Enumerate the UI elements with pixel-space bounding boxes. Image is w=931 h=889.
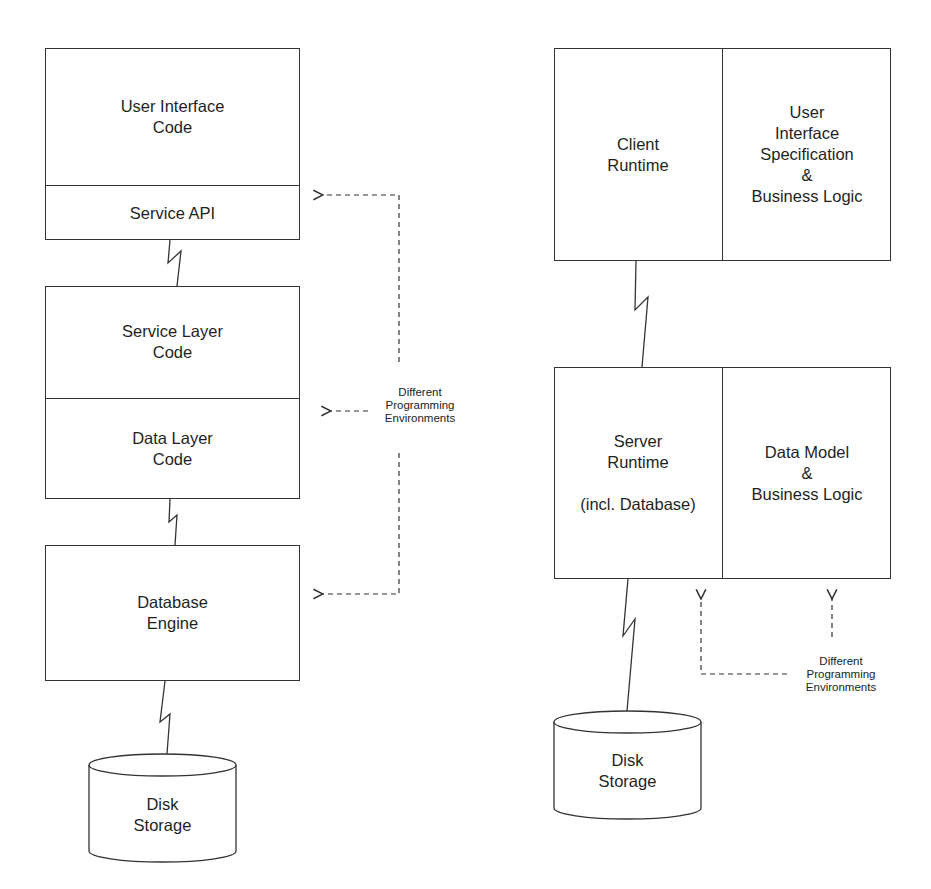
database-engine-label: Database Engine	[137, 592, 208, 634]
right-disk-storage-label: Disk Storage	[554, 750, 701, 792]
server-runtime-cell: Server Runtime (incl. Database)	[554, 367, 722, 579]
connector-service-to-db	[169, 499, 177, 545]
server-runtime-label: Server Runtime (incl. Database)	[580, 431, 696, 515]
connector-client-to-server	[635, 261, 648, 367]
ui-code-cell: User Interface Code	[45, 48, 300, 185]
data-model-cell: Data Model & Business Logic	[723, 367, 891, 579]
data-layer-label: Data Layer Code	[132, 428, 213, 470]
client-runtime-label: Client Runtime	[607, 134, 668, 176]
service-layer-cell: Service Layer Code	[45, 286, 300, 398]
ui-spec-label: User Interface Specification & Business …	[752, 102, 863, 207]
ui-code-label: User Interface Code	[121, 96, 225, 138]
left-environments-label: Different Programming Environments	[370, 386, 470, 425]
connector-server-to-disk	[623, 579, 635, 711]
database-engine-cell: Database Engine	[45, 545, 300, 681]
client-runtime-cell: Client Runtime	[554, 48, 722, 261]
left-disk-storage-label: Disk Storage	[89, 794, 236, 836]
right-environments-label: Different Programming Environments	[791, 655, 891, 694]
data-layer-cell: Data Layer Code	[45, 399, 300, 499]
connector-db-to-disk	[160, 681, 170, 754]
connector-ui-to-service	[168, 240, 181, 286]
data-model-label: Data Model & Business Logic	[752, 442, 863, 505]
service-api-label: Service API	[130, 203, 215, 224]
service-layer-label: Service Layer Code	[122, 321, 223, 363]
ui-spec-cell: User Interface Specification & Business …	[723, 48, 891, 261]
service-api-cell: Service API	[45, 186, 300, 240]
